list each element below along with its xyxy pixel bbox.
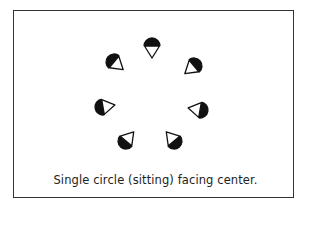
caption: Single circle (sitting) facing center. (0, 173, 311, 187)
person-figure-icon (144, 38, 160, 58)
person-figure-icon (180, 55, 206, 80)
person-figure-icon (115, 127, 140, 153)
person-figure-icon (103, 51, 129, 76)
person-figure-icon (187, 100, 209, 119)
person-figure-icon (160, 127, 185, 153)
person-figure-icon (94, 97, 116, 116)
